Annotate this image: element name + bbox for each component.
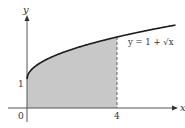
x-axis-arrow-icon	[172, 106, 178, 111]
y-tick-1-label: 1	[18, 79, 24, 89]
shaded-area	[27, 37, 117, 108]
x-tick-4-label: 4	[114, 111, 120, 121]
y-axis-arrow-icon	[25, 15, 30, 21]
x-axis-label: x	[180, 102, 185, 113]
graph: y x 0 1 4 y = 1 + √x	[0, 0, 185, 128]
curve-label: y = 1 + √x	[127, 37, 174, 47]
origin-label: 0	[18, 111, 24, 121]
y-axis-label: y	[22, 4, 29, 15]
